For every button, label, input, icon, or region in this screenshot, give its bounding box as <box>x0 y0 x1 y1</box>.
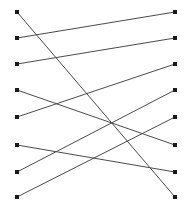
node-marker-r3 <box>173 62 176 65</box>
edge-l6-r7 <box>17 145 175 172</box>
edge-l3-r2 <box>17 38 175 64</box>
node-marker-l7 <box>15 170 18 173</box>
edge-l7-r4 <box>17 90 175 172</box>
node-marker-l1 <box>15 10 18 13</box>
node-marker-l4 <box>15 88 18 91</box>
edge-l5-r3 <box>17 64 175 117</box>
node-marker-l2 <box>15 36 18 39</box>
edge-l2-r1 <box>17 12 175 38</box>
edge-l1-r8 <box>17 12 175 197</box>
node-marker-l5 <box>15 115 18 118</box>
node-marker-r1 <box>173 10 176 13</box>
edge-l8-r5 <box>17 117 175 197</box>
diagram-canvas <box>0 0 192 205</box>
node-marker-l8 <box>15 195 18 198</box>
node-marker-r6 <box>173 143 176 146</box>
edge-l4-r6 <box>17 90 175 145</box>
node-marker-r7 <box>173 170 176 173</box>
node-marker-r4 <box>173 88 176 91</box>
node-marker-r2 <box>173 36 176 39</box>
node-marker-r8 <box>173 195 176 198</box>
bipartite-line-diagram <box>0 0 192 205</box>
node-marker-r5 <box>173 115 176 118</box>
node-marker-l3 <box>15 62 18 65</box>
edges-group <box>17 12 175 197</box>
node-marker-l6 <box>15 143 18 146</box>
